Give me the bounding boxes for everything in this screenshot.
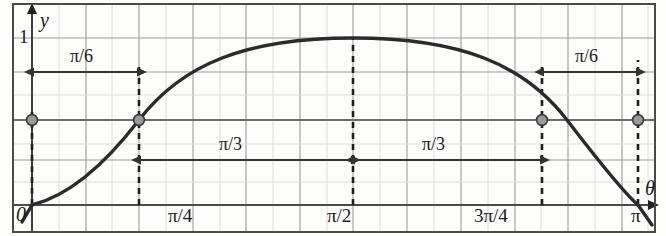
span-label-pi-3-left: π/3 <box>219 135 242 153</box>
plot-canvas <box>0 0 666 236</box>
x-tick-label-pi-4: π/4 <box>168 206 192 225</box>
marker-pi-6 <box>134 115 145 126</box>
x-tick-label-pi: π <box>631 206 641 225</box>
sine-graph-figure: y 1 0 θ π/4 π/2 3π/4 π π/6 π/3 π/3 π/6 <box>0 0 666 236</box>
x-tick-label-3pi-4: 3π/4 <box>474 206 508 225</box>
span-label-pi-6-left: π/6 <box>70 47 93 65</box>
x-axis-label: θ <box>645 178 655 198</box>
span-label-pi-6-right: π/6 <box>575 47 598 65</box>
marker-0 <box>27 115 38 126</box>
y-axis-label: y <box>40 10 49 30</box>
origin-label: 0 <box>16 204 26 224</box>
marker-pi <box>633 115 644 126</box>
span-label-pi-3-right: π/3 <box>422 135 445 153</box>
x-tick-label-pi-2: π/2 <box>327 206 351 225</box>
y-max-tick-label: 1 <box>19 27 29 46</box>
marker-5pi-6 <box>537 115 548 126</box>
